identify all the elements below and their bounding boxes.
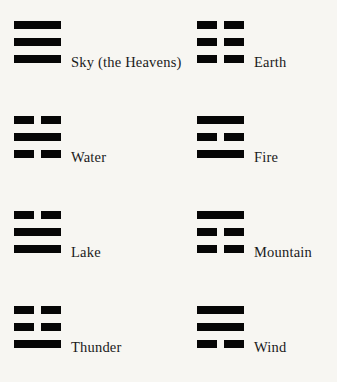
trigram-symbol bbox=[197, 211, 244, 253]
yang-solid-line bbox=[197, 306, 244, 314]
yin-broken-line bbox=[14, 116, 61, 124]
trigram-symbol bbox=[197, 21, 244, 63]
trigram-cell: Fire bbox=[197, 116, 278, 158]
trigram-cell: Earth bbox=[197, 21, 286, 63]
trigram-label: Water bbox=[71, 153, 106, 161]
trigram-label: Mountain bbox=[254, 248, 312, 256]
yang-solid-line bbox=[14, 55, 61, 63]
line-gap bbox=[217, 228, 224, 236]
yin-broken-line bbox=[197, 228, 244, 236]
line-segment-left bbox=[197, 21, 217, 29]
yang-solid-line bbox=[197, 211, 244, 219]
line-segment bbox=[197, 211, 244, 219]
line-segment bbox=[197, 323, 244, 331]
yang-solid-line bbox=[14, 21, 61, 29]
yin-broken-line bbox=[14, 323, 61, 331]
yang-solid-line bbox=[197, 116, 244, 124]
trigram-cell: Wind bbox=[197, 306, 286, 348]
line-segment-left bbox=[14, 150, 34, 158]
line-segment-right bbox=[224, 21, 244, 29]
trigram-label: Sky (the Heavens) bbox=[71, 58, 182, 66]
line-segment bbox=[197, 116, 244, 124]
trigram-label: Fire bbox=[254, 153, 278, 161]
trigram-symbol bbox=[14, 211, 61, 253]
line-gap bbox=[217, 340, 224, 348]
trigram-cell: Thunder bbox=[14, 306, 122, 348]
line-segment-right bbox=[41, 150, 61, 158]
line-segment-right bbox=[41, 306, 61, 314]
line-segment-left bbox=[14, 323, 34, 331]
line-gap bbox=[34, 323, 41, 331]
line-segment bbox=[14, 38, 61, 46]
trigram-label: Wind bbox=[254, 343, 286, 351]
line-gap bbox=[217, 55, 224, 63]
line-segment-right bbox=[224, 228, 244, 236]
line-segment-right bbox=[41, 211, 61, 219]
line-segment-right bbox=[41, 116, 61, 124]
line-segment bbox=[197, 150, 244, 158]
trigram-label: Earth bbox=[254, 58, 286, 66]
line-gap bbox=[34, 150, 41, 158]
trigram-symbol bbox=[14, 116, 61, 158]
line-gap bbox=[217, 245, 224, 253]
line-gap bbox=[217, 38, 224, 46]
yang-solid-line bbox=[14, 245, 61, 253]
trigram-cell: Mountain bbox=[197, 211, 312, 253]
line-segment bbox=[14, 228, 61, 236]
trigram-symbol bbox=[197, 116, 244, 158]
trigram-grid: Sky (the Heavens)EarthWaterFireLakeMount… bbox=[0, 0, 337, 382]
yang-solid-line bbox=[197, 150, 244, 158]
line-segment-left bbox=[197, 245, 217, 253]
line-segment-right bbox=[224, 55, 244, 63]
line-gap bbox=[34, 306, 41, 314]
line-segment-left bbox=[197, 38, 217, 46]
yang-solid-line bbox=[14, 38, 61, 46]
line-segment bbox=[14, 245, 61, 253]
line-segment-left bbox=[14, 211, 34, 219]
line-segment bbox=[14, 21, 61, 29]
trigram-symbol bbox=[14, 306, 61, 348]
trigram-cell: Sky (the Heavens) bbox=[14, 21, 182, 63]
yin-broken-line bbox=[197, 245, 244, 253]
yin-broken-line bbox=[197, 38, 244, 46]
line-gap bbox=[217, 21, 224, 29]
yang-solid-line bbox=[14, 133, 61, 141]
yin-broken-line bbox=[197, 133, 244, 141]
trigram-label: Thunder bbox=[71, 343, 122, 351]
line-segment-left bbox=[197, 133, 217, 141]
line-gap bbox=[34, 116, 41, 124]
yin-broken-line bbox=[14, 306, 61, 314]
line-segment-right bbox=[224, 340, 244, 348]
trigram-cell: Water bbox=[14, 116, 106, 158]
line-gap bbox=[217, 133, 224, 141]
yin-broken-line bbox=[197, 55, 244, 63]
line-segment-right bbox=[224, 245, 244, 253]
line-segment-right bbox=[224, 38, 244, 46]
line-segment-left bbox=[197, 340, 217, 348]
yin-broken-line bbox=[197, 21, 244, 29]
line-segment bbox=[197, 306, 244, 314]
line-segment bbox=[14, 133, 61, 141]
trigram-cell: Lake bbox=[14, 211, 101, 253]
yang-solid-line bbox=[14, 228, 61, 236]
line-gap bbox=[34, 211, 41, 219]
yin-broken-line bbox=[14, 150, 61, 158]
yang-solid-line bbox=[14, 340, 61, 348]
yang-solid-line bbox=[197, 323, 244, 331]
trigram-symbol bbox=[197, 306, 244, 348]
yin-broken-line bbox=[14, 211, 61, 219]
yin-broken-line bbox=[197, 340, 244, 348]
line-segment-left bbox=[14, 306, 34, 314]
trigram-label: Lake bbox=[71, 248, 101, 256]
line-segment-left bbox=[197, 55, 217, 63]
line-segment-right bbox=[41, 323, 61, 331]
line-segment-left bbox=[14, 116, 34, 124]
trigram-symbol bbox=[14, 21, 61, 63]
line-segment bbox=[14, 340, 61, 348]
line-segment bbox=[14, 55, 61, 63]
line-segment-left bbox=[197, 228, 217, 236]
line-segment-right bbox=[224, 133, 244, 141]
